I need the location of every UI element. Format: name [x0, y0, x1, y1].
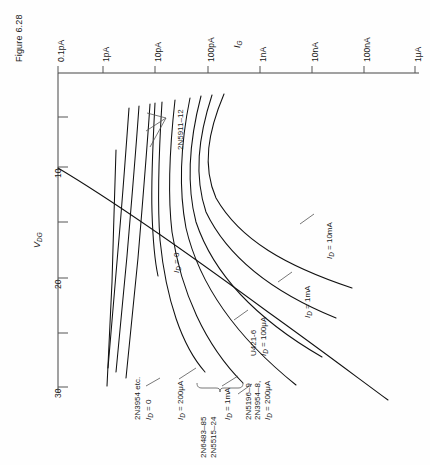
leader-id100ua [234, 310, 248, 320]
label-id-1ma-right-sub: D [306, 311, 313, 316]
label-id-0-upper-sub: D [175, 266, 182, 271]
curve-group-zero-drain [107, 104, 150, 386]
label-id-200ua-left-main: I [176, 418, 185, 420]
curve-2n5911-a [108, 108, 129, 368]
label-2n3954-8: 2N3954–8, [253, 381, 262, 420]
x-axis-ticks [58, 117, 68, 387]
x-tick-label-10: 10 [53, 169, 63, 178]
label-id-200ua-left-rest: = 200μA [176, 381, 185, 413]
label-id-100ua-sub: D [262, 349, 269, 354]
y-axis-title: IG [232, 41, 244, 49]
label-id-200ua-left: ID = 200μA [176, 381, 187, 420]
curve-group-drain-current [58, 94, 388, 400]
label-id-0-lower-sub: D [147, 413, 154, 418]
leader-id0-lower [146, 378, 160, 386]
label-id-200ua-right-main: I [263, 418, 272, 420]
curve-id0-a [107, 150, 116, 386]
label-id-0-lower-main: I [144, 418, 153, 420]
y-axis-ticks [58, 66, 415, 73]
label-id-1ma-left-sub: D [226, 413, 233, 418]
label-id-200ua-left-sub: D [179, 413, 186, 418]
label-2n6483-85: 2N6483–85 [199, 417, 208, 458]
y-tick-label-6: 100nA [362, 37, 372, 62]
y-tick-label-2: 10pA [153, 42, 163, 62]
label-2n3954-etc: 2N3954 etc. [133, 377, 142, 420]
label-id-0-lower: ID = 0 [144, 400, 155, 420]
x-axis-title: VDG [32, 232, 44, 248]
y-tick-label-3: 100pA [206, 37, 216, 62]
x-axis-title-main: V [32, 242, 42, 248]
y-tick-label-0: 0.1pA [56, 40, 66, 62]
label-u421-6: U421-6 [249, 330, 258, 356]
label-id-10ma: ID = 10mA [325, 222, 336, 259]
x-tick-label-30: 30 [53, 389, 63, 398]
label-2n5911-12: 2N5911–12 [176, 109, 185, 150]
label-id-0-upper: ID = 0 [172, 253, 183, 273]
curve-id-10ma-b [199, 95, 336, 318]
axis-lines [58, 73, 419, 393]
leader-id1ma-right [278, 272, 292, 282]
leader-id1ma-left [222, 376, 238, 386]
part-brace [197, 383, 243, 392]
label-id-100ua-main: I [259, 354, 268, 356]
x-tick-label-20: 20 [53, 280, 63, 289]
x-axis-title-sub: DG [36, 232, 43, 242]
label-2n5515-24: 2N5515–24 [209, 417, 218, 458]
label-id-200ua-right-sub: D [266, 413, 273, 418]
figure-page: Figure 6.28 IG VDG 0.1pA 1pA 10pA 100pA … [0, 0, 430, 465]
curve-id0-b [126, 104, 150, 378]
label-2n5196-9: 2N5196–9 [244, 383, 253, 420]
label-id-10ma-rest: = 10mA [325, 222, 334, 252]
label-id-100ua-rest: = 100μA [259, 317, 268, 349]
curve-id-1ma-b [181, 98, 296, 385]
label-id-200ua-right: ID = 200μA [263, 381, 274, 420]
y-tick-label-7: 1μA [413, 47, 423, 62]
y-axis-title-main: I [232, 45, 242, 48]
label-id-0-upper-rest: = 0 [172, 253, 181, 267]
label-id-1ma-left: ID = 1mA [223, 388, 234, 420]
label-id-10ma-main: I [325, 257, 334, 259]
label-id-0-upper-main: I [172, 271, 181, 273]
leader-id200ua-left [179, 368, 196, 379]
y-tick-label-5: 10nA [310, 42, 320, 62]
y-tick-label-1: 1pA [101, 47, 111, 62]
y-tick-label-4: 1nA [258, 47, 268, 62]
y-axis-title-sub: G [236, 41, 243, 46]
label-id-1ma-right-rest: = 1mA [303, 286, 312, 312]
label-id-1ma-left-main: I [223, 418, 232, 420]
plot-canvas [0, 0, 430, 465]
label-id-100ua: ID = 100μA [259, 317, 270, 356]
curve-id-0-knee [152, 103, 158, 276]
figure-caption: Figure 6.28 [14, 14, 25, 62]
label-id-1ma-right: ID = 1mA [303, 286, 314, 318]
label-id-10ma-sub: D [328, 252, 335, 257]
label-id-1ma-right-main: I [303, 316, 312, 318]
label-id-200ua-right-rest: = 200μA [263, 381, 272, 413]
leader-id10ma [300, 214, 314, 224]
label-id-0-lower-rest: = 0 [144, 400, 153, 414]
label-id-1ma-left-rest: = 1mA [223, 388, 232, 414]
